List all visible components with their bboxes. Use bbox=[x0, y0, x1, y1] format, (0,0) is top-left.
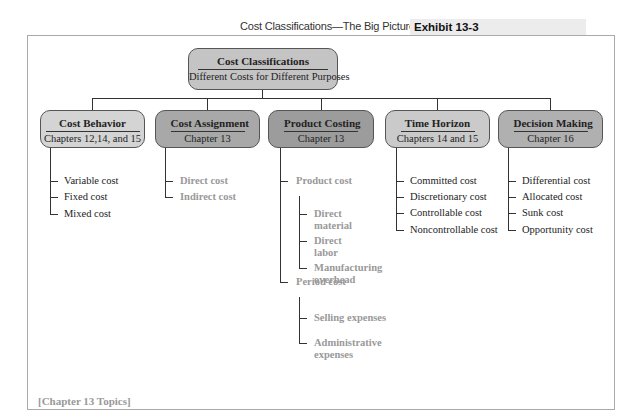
list-item: Controllable cost bbox=[410, 207, 482, 219]
node-title: Product Costing bbox=[284, 117, 358, 132]
node-decision-making: Decision Making Chapter 16 bbox=[498, 110, 603, 148]
list-item: Direct material bbox=[314, 208, 352, 232]
item-line: Direct bbox=[314, 235, 342, 246]
tree-tick bbox=[299, 318, 307, 319]
tree-line bbox=[299, 297, 300, 343]
exhibit-number: Exhibit 13-3 bbox=[410, 19, 586, 35]
list-item: Allocated cost bbox=[522, 191, 582, 203]
tree-tick bbox=[280, 282, 288, 283]
node-cost-assignment: Cost Assignment Chapter 13 bbox=[155, 110, 260, 148]
root-title: Cost Classifications bbox=[198, 55, 328, 70]
tree-tick bbox=[50, 214, 58, 215]
tree-tick bbox=[508, 197, 516, 198]
item-line: Direct bbox=[314, 208, 342, 219]
tree-tick bbox=[50, 181, 58, 182]
list-item: Variable cost bbox=[64, 175, 119, 187]
tree-tick bbox=[396, 197, 404, 198]
tree-tick bbox=[396, 181, 404, 182]
node-subtitle: Chapter 13 bbox=[156, 132, 259, 146]
tree-line bbox=[508, 148, 509, 231]
root-subtitle: Different Costs for Different Purposes bbox=[189, 70, 337, 84]
tree-line bbox=[396, 148, 397, 231]
list-item: Discretionary cost bbox=[410, 191, 487, 203]
list-item: Administrative expenses bbox=[314, 337, 382, 361]
tree-tick bbox=[508, 230, 516, 231]
exhibit-title: Cost Classifications—The Big Picture bbox=[240, 20, 402, 32]
connector-time-horizon bbox=[437, 98, 438, 110]
list-item: Indirect cost bbox=[180, 191, 236, 203]
node-product-costing: Product Costing Chapter 13 bbox=[268, 110, 374, 148]
node-title: Cost Assignment bbox=[171, 117, 245, 132]
root-node: Cost Classifications Different Costs for… bbox=[188, 48, 338, 90]
list-item: Committed cost bbox=[410, 175, 477, 187]
list-item: Opportunity cost bbox=[522, 224, 593, 236]
item-line: Administrative bbox=[314, 337, 382, 348]
list-item: Differential cost bbox=[522, 175, 590, 187]
tree-tick bbox=[299, 343, 307, 344]
node-cost-behavior: Cost Behavior Chapters 12,14, and 15 bbox=[40, 110, 145, 148]
node-subtitle: Chapter 16 bbox=[499, 132, 602, 146]
group-label: Product cost bbox=[296, 175, 352, 187]
node-subtitle: Chapters 12,14, and 15 bbox=[41, 132, 144, 146]
tree-tick bbox=[299, 214, 307, 215]
list-item: Noncontrollable cost bbox=[410, 224, 498, 236]
tree-tick bbox=[280, 181, 288, 182]
item-line: expenses bbox=[314, 349, 353, 360]
root-connector bbox=[262, 90, 263, 98]
tree-tick bbox=[508, 181, 516, 182]
list-item: Selling expenses bbox=[314, 312, 386, 324]
group-label: Period cost bbox=[296, 276, 346, 288]
tree-line bbox=[165, 148, 166, 198]
list-item: Direct cost bbox=[180, 175, 228, 187]
tree-tick bbox=[299, 241, 307, 242]
tree-tick bbox=[50, 197, 58, 198]
list-item: Mixed cost bbox=[64, 208, 111, 220]
node-title: Cost Behavior bbox=[46, 117, 140, 132]
item-line: material bbox=[314, 220, 352, 231]
connector-product-costing bbox=[321, 98, 322, 110]
tree-tick bbox=[165, 181, 173, 182]
tree-tick bbox=[165, 197, 173, 198]
item-line: labor bbox=[314, 247, 338, 258]
list-item: Fixed cost bbox=[64, 191, 107, 203]
node-title: Decision Making bbox=[514, 117, 588, 132]
tree-tick bbox=[508, 213, 516, 214]
connector-cost-behavior bbox=[92, 98, 93, 110]
tree-tick bbox=[299, 268, 307, 269]
node-title: Time Horizon bbox=[401, 117, 475, 132]
connector-decision-making bbox=[550, 98, 551, 110]
tree-tick bbox=[396, 230, 404, 231]
node-time-horizon: Time Horizon Chapters 14 and 15 bbox=[385, 110, 490, 148]
list-item: Sunk cost bbox=[522, 207, 563, 219]
chapter-topics-note: [Chapter 13 Topics] bbox=[38, 395, 131, 407]
list-item: Direct labor bbox=[314, 235, 342, 259]
tree-tick bbox=[396, 213, 404, 214]
tree-line bbox=[299, 196, 300, 268]
connector-cost-assignment bbox=[207, 98, 208, 110]
tree-line bbox=[280, 148, 281, 282]
node-subtitle: Chapters 14 and 15 bbox=[386, 132, 489, 146]
node-subtitle: Chapter 13 bbox=[269, 132, 373, 146]
item-line: Manufacturing bbox=[314, 262, 382, 273]
